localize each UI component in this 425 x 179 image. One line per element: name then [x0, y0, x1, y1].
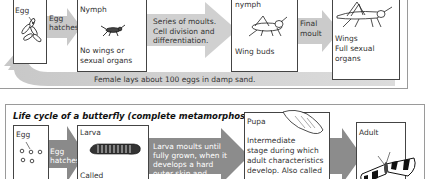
- stage-older-nymph-label: nymph: [235, 0, 261, 9]
- adult-grasshopper-icon: [333, 2, 393, 28]
- older-nymph-icon: [243, 14, 287, 38]
- stage-nymph-label: Nymph: [80, 5, 107, 14]
- stage-egg-label: Egg: [15, 6, 29, 15]
- series-of-moults-text: Series of moults. Cell division and diff…: [153, 17, 216, 46]
- pupa-description: Intermediate stage during which adult ch…: [247, 136, 323, 176]
- butterfly-adult-label: Adult: [359, 128, 379, 137]
- chrysalis-icon: [281, 108, 325, 138]
- final-moult-text: Final moult: [300, 19, 322, 39]
- butterfly-egg-label: Egg: [16, 130, 30, 139]
- egg-hatches-text: Egg hatches: [49, 15, 79, 32]
- older-nymph-description: Wing buds: [235, 47, 274, 57]
- caterpillar-icon: [88, 141, 142, 157]
- butterfly-title: Life cycle of a butterfly (complete meta…: [13, 111, 257, 121]
- butterfly-eggs-icon: [16, 140, 46, 164]
- small-nymph-icon: [100, 24, 126, 38]
- butterfly-icon: [352, 148, 418, 179]
- nymph-description: No wings or sexual organs: [80, 46, 132, 65]
- adult-grasshopper-description: Wings Full sexual organs: [335, 34, 374, 64]
- butterfly-larva-called-text: Called: [80, 171, 103, 179]
- butterfly-egg-hatches-text: Egg hatches: [50, 148, 80, 165]
- larva-moults-text: Larva moults until fully grown, when it …: [153, 142, 227, 178]
- butterfly-larva-label: Larva: [80, 128, 101, 137]
- grasshopper-eggs-icon: [18, 17, 42, 45]
- return-arrow-text: Female lays about 100 eggs in damp sand.: [94, 75, 256, 85]
- butterfly-pupa-label: Pupa: [247, 117, 266, 126]
